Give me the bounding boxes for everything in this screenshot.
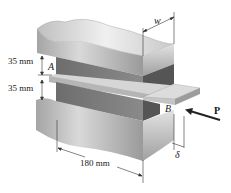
label-point-b: B bbox=[165, 103, 171, 114]
label-displacement: δ bbox=[175, 149, 180, 160]
label-width: w bbox=[154, 15, 161, 26]
label-point-a: A bbox=[47, 61, 55, 72]
dimension-bottom-gap bbox=[41, 80, 44, 100]
label-top-gap: 35 mm bbox=[8, 56, 33, 66]
shear-pad-diagram: 35 mm A 35 mm w B P δ 180 mm bbox=[0, 0, 231, 193]
label-bottom-gap: 35 mm bbox=[8, 83, 33, 93]
label-force: P bbox=[214, 105, 220, 116]
diagram-canvas: 35 mm A 35 mm w B P δ 180 mm bbox=[0, 0, 231, 193]
label-length: 180 mm bbox=[80, 158, 110, 168]
dimension-displacement bbox=[172, 114, 184, 150]
